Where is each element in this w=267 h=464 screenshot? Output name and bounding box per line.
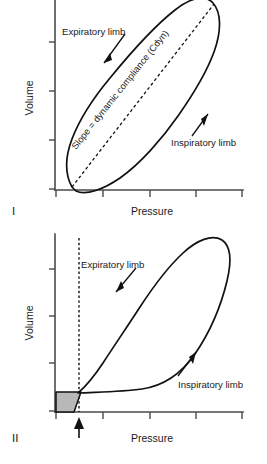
panel-2-shaded-wedge <box>56 392 81 412</box>
panel-2-x-axis-title: Pressure <box>131 432 173 444</box>
panel-2-x-ticks <box>56 412 242 419</box>
panel-1-inspiratory-label: Inspiratory limb <box>171 137 236 148</box>
panel-2-expiratory-label: Expiratory limb <box>81 259 144 270</box>
panel-1-y-axis-title: Volume <box>23 80 35 115</box>
panel-1-y-ticks <box>49 42 55 189</box>
panel-2-inflection-up-arrow <box>74 417 84 438</box>
panel-2-plot: Expiratory limb Inspiratory limb Volume … <box>0 226 267 464</box>
panel-2-expiratory-arrow <box>116 268 136 292</box>
panel-2-y-ticks <box>49 269 55 411</box>
panel-2-y-axis-title: Volume <box>23 305 35 340</box>
figure-panel-1: Expiratory limb Inspiratory limb Slope =… <box>0 0 267 232</box>
panel-1-slope-label: Slope = dynamic compliance (Cdyn) <box>70 28 171 151</box>
panel-1-tag: I <box>12 205 15 217</box>
panel-2-inspiratory-label: Inspiratory limb <box>178 379 243 390</box>
panel-2-inspiratory-arrow <box>178 352 196 376</box>
panel-2-tag: II <box>12 432 18 444</box>
figure-panel-2: Expiratory limb Inspiratory limb Volume … <box>0 226 267 464</box>
panel-1-plot: Expiratory limb Inspiratory limb Slope =… <box>0 0 267 232</box>
panel-1-x-ticks <box>56 190 242 197</box>
panel-1-expiratory-label: Expiratory limb <box>62 26 125 37</box>
panel-1-expiratory-arrow <box>104 34 125 63</box>
panel-1-x-axis-title: Pressure <box>131 205 173 217</box>
panel-1-inspiratory-arrow <box>192 114 208 136</box>
